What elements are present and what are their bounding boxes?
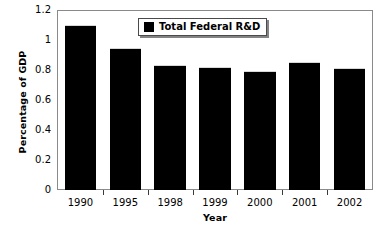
bar (334, 68, 365, 190)
y-axis-tick-label: 0.6 (18, 95, 51, 105)
x-axis-tick-mark (237, 190, 238, 195)
x-axis-title: Year (57, 212, 373, 223)
y-axis-tick-label: 0.2 (18, 155, 51, 165)
y-axis-tick-label: 1.2 (18, 5, 51, 15)
x-axis-tick-mark (327, 190, 328, 195)
y-axis-tick-labels: 00.20.40.60.811.2 (18, 10, 51, 190)
x-axis-tick-label: 1990 (68, 196, 93, 210)
legend-entry-label: Total Federal R&D (159, 22, 260, 32)
y-axis-tick-label: 1 (18, 35, 51, 45)
bar (244, 71, 275, 190)
chart-legend: Total Federal R&D (138, 18, 267, 36)
bar (110, 48, 141, 190)
y-axis-tick-label: 0.8 (18, 65, 51, 75)
bar (65, 25, 96, 190)
x-axis-tick-label: 1995 (113, 196, 138, 210)
bar-chart: Percentage of GDP 00.20.40.60.811.2 1990… (0, 0, 385, 237)
x-axis-tick-label: 2002 (337, 196, 362, 210)
x-axis-tick-mark (103, 190, 104, 195)
y-axis-tick-label: 0.4 (18, 125, 51, 135)
bar (199, 67, 230, 190)
x-axis-tick-label: 2001 (292, 196, 317, 210)
x-axis-tick-mark (193, 190, 194, 195)
x-axis-tick-label: 1999 (202, 196, 227, 210)
x-axis-tick-label: 2000 (247, 196, 272, 210)
bar (289, 62, 320, 190)
x-axis-tick-labels: 1990199519981999200020012002 (57, 196, 373, 210)
bar (154, 65, 185, 190)
x-axis-tick-mark (148, 190, 149, 195)
x-axis-tick-mark (282, 190, 283, 195)
legend-swatch-icon (144, 22, 154, 32)
bar-series-total-federal-rd (58, 11, 372, 190)
x-axis-tick-label: 1998 (157, 196, 182, 210)
y-axis-tick-label: 0 (18, 185, 51, 195)
